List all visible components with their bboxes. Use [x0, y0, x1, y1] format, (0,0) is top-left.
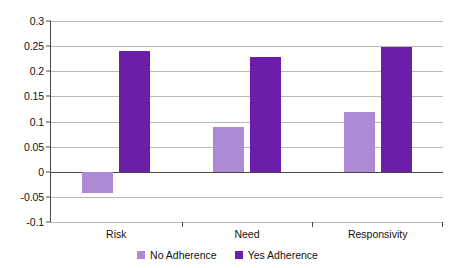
bar	[82, 172, 113, 193]
legend-color-swatch	[235, 251, 243, 259]
legend-item[interactable]: Yes Adherence	[235, 249, 318, 261]
y-axis-tick	[46, 71, 51, 72]
y-axis-tick	[46, 146, 51, 147]
bar	[344, 112, 375, 171]
y-axis-tick-label: 0.3	[0, 16, 44, 27]
bar	[119, 51, 150, 172]
bar	[213, 127, 244, 172]
x-axis-tick	[442, 222, 443, 227]
y-axis-tick-label: 0	[0, 166, 44, 177]
legend-label: Yes Adherence	[248, 249, 318, 261]
legend-item[interactable]: No Adherence	[137, 249, 217, 261]
y-axis-tick-label: -0.05	[0, 191, 44, 202]
y-axis-tick	[46, 196, 51, 197]
y-axis-tick	[46, 21, 51, 22]
legend-label: No Adherence	[150, 249, 217, 261]
y-axis-tick-label: 0.25	[0, 41, 44, 52]
x-axis-category-labels: RiskNeedResponsivity	[51, 228, 443, 244]
gridline	[51, 21, 443, 22]
gridline	[51, 222, 443, 223]
bar-chart: 0.30.250.20.150.10.050-0.05-0.1 RiskNeed…	[0, 0, 455, 268]
bar	[250, 57, 281, 172]
y-axis-tick-label: 0.05	[0, 141, 44, 152]
y-axis-tick	[46, 46, 51, 47]
x-axis-category-label: Risk	[106, 228, 126, 241]
x-axis-category-label: Responsivity	[348, 228, 408, 241]
y-axis-tick-label: 0.2	[0, 66, 44, 77]
x-axis-tick	[312, 222, 313, 227]
legend-color-swatch	[137, 251, 145, 259]
y-axis-tick	[46, 121, 51, 122]
plot-panel	[51, 21, 443, 222]
gridline	[51, 197, 443, 198]
plot-area: 0.30.250.20.150.10.050-0.05-0.1 RiskNeed…	[0, 0, 455, 232]
y-axis-tick-labels: 0.30.250.20.150.10.050-0.05-0.1	[0, 0, 44, 232]
chart-legend: No AdherenceYes Adherence	[0, 247, 455, 263]
y-axis-tick	[46, 171, 51, 172]
bar	[381, 47, 412, 172]
y-axis-tick-label: 0.1	[0, 116, 44, 127]
x-axis-tick	[182, 222, 183, 227]
x-axis-category-label: Need	[234, 228, 259, 241]
y-axis-tick	[46, 222, 51, 223]
y-axis-tick-label: -0.1	[0, 217, 44, 228]
y-axis-tick-label: 0.15	[0, 91, 44, 102]
y-axis-tick	[46, 96, 51, 97]
